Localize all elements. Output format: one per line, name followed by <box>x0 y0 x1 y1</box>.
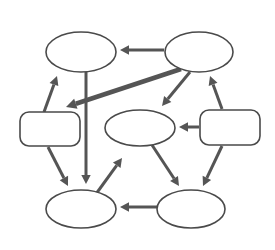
node-top-right-ellipse[interactable] <box>165 32 233 72</box>
node-right-rounded-rect[interactable] <box>200 110 260 145</box>
diagram-svg <box>0 0 275 250</box>
node-center-ellipse[interactable] <box>105 110 175 146</box>
node-left-rounded-rect[interactable] <box>20 112 80 146</box>
node-bottom-left-ellipse[interactable] <box>46 190 116 228</box>
edge-arrow <box>44 76 58 112</box>
edge-arrow <box>48 147 68 186</box>
edge-arrow <box>162 72 190 106</box>
edge-arrow <box>203 146 222 186</box>
edge-arrow <box>120 45 164 54</box>
edge-arrow <box>120 202 157 211</box>
edge-arrow <box>152 145 179 186</box>
nodes-layer <box>20 32 260 228</box>
node-top-left-ellipse[interactable] <box>46 32 116 72</box>
edge-arrow <box>81 72 90 184</box>
node-bottom-right-ellipse[interactable] <box>157 190 225 228</box>
edge-arrow <box>209 76 222 109</box>
diagram-canvas <box>0 0 275 250</box>
edge-arrow <box>179 122 199 131</box>
